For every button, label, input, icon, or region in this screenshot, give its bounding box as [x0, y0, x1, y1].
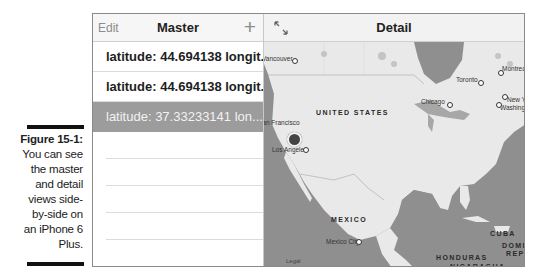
city-dot: [498, 70, 504, 76]
caption-text: Figure 15-1: You can see the master and …: [0, 132, 83, 252]
location-pin[interactable]: [287, 132, 302, 147]
caption-line: You can see: [0, 147, 83, 162]
legal-link[interactable]: Legal: [286, 258, 301, 264]
map-label-vancouver: Vancouver: [264, 55, 293, 62]
caption-line: Plus.: [0, 237, 83, 252]
master-nav-bar: Edit Master +: [93, 14, 263, 42]
map-label-toronto: Toronto: [456, 76, 478, 83]
caption-line: views side-: [0, 192, 83, 207]
caption-line: the master: [0, 162, 83, 177]
empty-row: [106, 132, 263, 159]
plus-icon: +: [244, 15, 256, 38]
caption-line: by-side on: [0, 207, 83, 222]
master-pane: Edit Master + latitude: 44.694138 longit…: [93, 14, 264, 266]
map-label-montreal: Montreal: [502, 65, 524, 72]
figure-label: Figure 15-1:: [0, 132, 83, 147]
empty-row: [106, 159, 263, 186]
empty-row: [106, 186, 263, 213]
map-shapes: [264, 14, 524, 266]
figure-caption: Figure 15-1: You can see the master and …: [0, 0, 86, 278]
empty-row: [106, 240, 263, 267]
map-label-new-york: New York: [507, 96, 524, 103]
detail-title: Detail: [264, 20, 524, 35]
caption-line: an iPhone 6: [0, 222, 83, 237]
map-label-mexico-city: Mexico City: [326, 238, 360, 245]
map-view[interactable]: Vancouver San Francisco Los Angeles UNIT…: [264, 14, 524, 266]
list-item[interactable]: latitude: 44.694138 longit...: [93, 72, 263, 102]
city-dot: [292, 58, 298, 64]
map-label-dominican: DOMINICAN: [502, 242, 524, 249]
map-label-nicaragua: NICARAGUA: [450, 263, 505, 266]
city-dot: [303, 147, 309, 153]
map-label-republic: REPUBLIC: [506, 250, 524, 257]
location-list: latitude: 44.694138 longit... latitude: …: [93, 42, 263, 267]
map-label-san-francisco: San Francisco: [264, 119, 300, 126]
map-label-cuba: CUBA: [490, 230, 516, 237]
list-item[interactable]: latitude: 44.694138 longit...: [93, 42, 263, 72]
edit-button[interactable]: Edit: [98, 21, 119, 35]
caption-rule-top: [27, 125, 84, 129]
map-label-chicago: Chicago: [421, 98, 445, 105]
map-label-washington: Washington: [500, 104, 524, 111]
add-button[interactable]: +: [244, 15, 256, 39]
map-label-mexico: MEXICO: [331, 216, 367, 223]
detail-pane: Vancouver San Francisco Los Angeles UNIT…: [264, 14, 524, 266]
list-item-selected[interactable]: latitude: 37.33233141 lon...: [93, 102, 263, 132]
city-dot: [447, 102, 453, 108]
city-dot: [502, 94, 508, 100]
map-label-united-states: UNITED STATES: [316, 109, 389, 116]
detail-nav-bar: Detail: [264, 14, 524, 42]
map-label-honduras: HONDURAS: [436, 254, 488, 261]
city-dot: [356, 239, 362, 245]
city-dot: [496, 102, 502, 108]
caption-rule-bottom: [27, 262, 84, 266]
caption-line: and detail: [0, 177, 83, 192]
empty-row: [106, 213, 263, 240]
city-dot: [478, 80, 484, 86]
split-view-screen: Edit Master + latitude: 44.694138 longit…: [92, 13, 525, 267]
